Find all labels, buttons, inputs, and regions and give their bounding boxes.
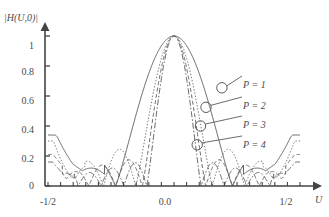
- chart-canvas: [0, 0, 329, 217]
- leader-line-3: [206, 116, 243, 124]
- x-tick-label-neg-half: -1/2: [28, 196, 68, 207]
- y-tick-label-0.4: 0.4: [6, 124, 34, 135]
- x-tick-label-pos-half: 1/2: [266, 196, 306, 207]
- leader-line-1: [227, 76, 242, 86]
- x-axis-label: U: [315, 194, 322, 205]
- series-marker-4: [192, 140, 202, 150]
- y-tick-label-0.2: 0.2: [6, 153, 34, 164]
- series-marker-1: [217, 83, 227, 93]
- x-tick-label-zero: 0.0: [145, 196, 185, 207]
- y-tick-label-0.6: 0.6: [6, 95, 34, 106]
- leader-line-group: [202, 76, 242, 143]
- series-marker-3: [195, 121, 205, 131]
- y-tick-label-0.8: 0.8: [6, 66, 34, 77]
- legend-label-p4: P = 4: [243, 139, 266, 150]
- legend-label-p1: P = 1: [243, 79, 266, 90]
- legend-label-p2: P = 2: [243, 100, 266, 111]
- leader-line-2: [211, 97, 242, 105]
- leader-line-4: [202, 136, 242, 143]
- figure-container: |H(U,0)| 1 0.8 0.6 0.4 0.2 0 -1/2 0.0 1/…: [0, 0, 329, 217]
- y-axis-label: |H(U,0)|: [4, 12, 38, 23]
- legend-label-p3: P = 3: [243, 119, 266, 130]
- y-tick-label-0: 0: [6, 180, 34, 191]
- y-tick-label-1: 1: [6, 40, 34, 51]
